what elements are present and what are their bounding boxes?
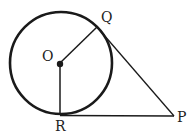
geometry-diagram: O Q R P	[0, 0, 194, 133]
center-point	[57, 61, 63, 67]
diagram-svg: O Q R P	[0, 0, 194, 133]
label-P: P	[177, 109, 186, 125]
label-O: O	[42, 48, 53, 64]
label-R: R	[55, 118, 66, 133]
radius-OQ	[60, 27, 97, 63]
label-Q: Q	[101, 9, 112, 25]
tangent-RP	[60, 116, 174, 117]
tangent-QP	[97, 27, 174, 116]
